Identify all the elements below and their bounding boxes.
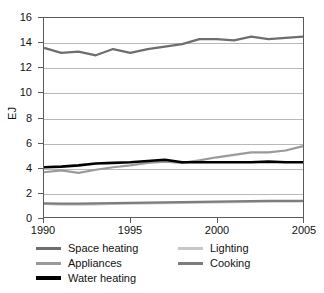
legend-item-label: Space heating: [68, 242, 138, 254]
legend-item-label: Lighting: [210, 242, 249, 254]
legend-swatch-icon: [178, 262, 203, 265]
y-axis-tick-label: 14: [20, 37, 32, 48]
legend-item[interactable]: Lighting: [178, 241, 249, 255]
chart-legend: Space heatingLightingAppliancesCookingWa…: [36, 241, 316, 289]
series-line: [44, 37, 303, 56]
legend-swatch-icon: [36, 262, 61, 265]
legend-swatch-icon: [36, 247, 61, 250]
x-axis-tick: [303, 218, 304, 223]
y-axis-tick-label: 2: [26, 187, 32, 198]
series-line: [44, 146, 303, 173]
legend-swatch-icon: [36, 276, 61, 280]
legend-item-label: Appliances: [68, 257, 122, 269]
x-axis-tick-label: 1995: [118, 224, 142, 236]
series-container: [44, 18, 303, 217]
legend-swatch-icon: [178, 247, 203, 250]
legend-row: Water heating: [36, 271, 316, 285]
y-axis-labels: 0246810121416: [0, 17, 37, 218]
legend-row: Space heatingLighting: [36, 241, 316, 255]
legend-item-label: Water heating: [68, 272, 136, 284]
y-axis-tick-label: 8: [26, 112, 32, 123]
x-axis-tick-label: 2000: [205, 224, 229, 236]
x-axis-labels: 1990199520002005: [43, 224, 304, 238]
series-line: [44, 160, 303, 167]
line-chart: EJ 0246810121416 1990199520002005 Space …: [0, 0, 324, 293]
x-axis-tick-label: 1990: [31, 224, 55, 236]
x-axis-tick-label: 2005: [292, 224, 316, 236]
x-axis-tick: [130, 218, 131, 223]
y-axis-tick-label: 10: [20, 87, 32, 98]
legend-row: AppliancesCooking: [36, 256, 316, 270]
y-axis-tick-label: 16: [20, 12, 32, 23]
x-axis-ticks: [43, 218, 304, 223]
y-axis-tick-label: 12: [20, 62, 32, 73]
legend-item[interactable]: Appliances: [36, 256, 122, 270]
y-axis-tick-label: 4: [26, 162, 32, 173]
y-axis-tick-label: 6: [26, 137, 32, 148]
x-axis-tick: [217, 218, 218, 223]
legend-item[interactable]: Space heating: [36, 241, 138, 255]
legend-item-label: Cooking: [210, 257, 250, 269]
legend-item[interactable]: Cooking: [178, 256, 250, 270]
x-axis-tick: [43, 218, 44, 223]
y-axis-tick-label: 0: [26, 213, 32, 224]
plot-area: [43, 17, 304, 218]
legend-item[interactable]: Water heating: [36, 271, 136, 285]
